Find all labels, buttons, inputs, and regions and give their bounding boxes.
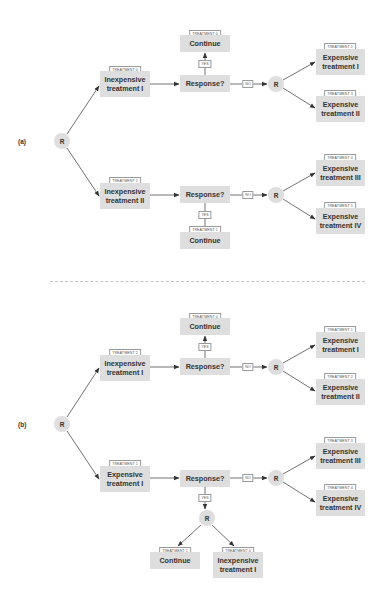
no-label: NO [242,191,253,199]
stage2-node-expensive-4: Expensive treatment IV [316,490,365,516]
stage2-node-expensive-1: Expensive treatment I [316,332,365,358]
randomization-node: R [268,187,284,203]
continue-node: Continue [180,318,230,335]
stage2-node-expensive-3: Expensive treatment III [316,160,365,186]
stage1-node-expensive-1: Expensive treatment I [100,466,150,492]
stage2-node-expensive-4: Expensive treatment IV [316,208,365,234]
panel-divider [50,281,365,282]
response-node: Response? [180,186,230,203]
response-node: Response? [180,358,230,375]
stage2-node-expensive-2: Expensive treatment II [316,379,365,405]
stage1-node-inexpensive-1: Inexpensive treatment I [100,71,150,97]
stage2-node-expensive-1: Expensive treatment I [316,49,365,75]
panel-label-b: (b) [18,421,26,428]
randomization-node: R [268,76,284,92]
yes-branch-node-inexpensive-1: Inexpensive treatment I [213,552,263,578]
response-node: Response? [180,75,230,92]
randomization-node: R [268,470,284,486]
no-label: NO [242,80,253,88]
randomization-node-root-a: R [54,133,70,149]
stage1-node-inexpensive-2: Inexpensive treatment II [100,183,150,209]
randomization-node: R [268,359,284,375]
randomization-node-root-b: R [54,416,70,432]
panel-label-a: (a) [18,138,26,145]
yes-label: YES [198,211,211,219]
yes-label: YES [198,60,211,68]
stage2-node-expensive-3: Expensive treatment III [316,443,365,469]
response-node: Response? [180,470,230,487]
no-label: NO [242,474,253,482]
yes-label: YES [198,494,211,502]
no-label: NO [242,363,253,371]
continue-node: Continue [180,35,230,52]
stage1-node-inexpensive-1: Inexpensive treatment I [100,355,150,381]
continue-node: Continue [150,552,200,569]
continue-node: Continue [180,232,230,249]
yes-label: YES [198,343,211,351]
stage2-node-expensive-2: Expensive treatment II [316,96,365,122]
randomization-node: R [199,510,215,526]
